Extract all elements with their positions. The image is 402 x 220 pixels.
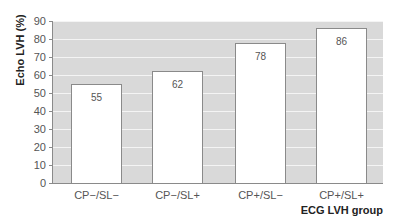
- bar-value-label: 78: [236, 51, 285, 62]
- y-tick-label: 10: [20, 159, 46, 171]
- y-axis-line: [52, 21, 53, 184]
- x-tick-label: CP+/SL−: [221, 189, 301, 201]
- bar: 78: [235, 43, 286, 183]
- x-tick-label: CP−/SL−: [57, 189, 137, 201]
- y-tick-label: 20: [20, 141, 46, 153]
- x-axis-title: ECG LVH group: [301, 204, 383, 216]
- bar: 86: [316, 28, 367, 183]
- x-axis-line: [52, 183, 383, 184]
- x-tick-label: CP+/SL+: [302, 189, 382, 201]
- gridline: [53, 21, 383, 22]
- bar-chart: 0102030405060708090 55627886 CP−/SL−CP−/…: [0, 0, 402, 220]
- bar: 55: [71, 84, 122, 183]
- y-tick-label: 30: [20, 123, 46, 135]
- y-tick-label: 50: [20, 87, 46, 99]
- bar: 62: [152, 71, 203, 183]
- y-axis-title: Echo LVH (%): [14, 14, 26, 85]
- y-tick-label: 40: [20, 105, 46, 117]
- x-tick-label: CP−/SL+: [138, 189, 218, 201]
- bar-value-label: 55: [72, 92, 121, 103]
- bar-value-label: 86: [317, 36, 366, 47]
- y-tick-label: 0: [20, 177, 46, 189]
- bar-value-label: 62: [153, 79, 202, 90]
